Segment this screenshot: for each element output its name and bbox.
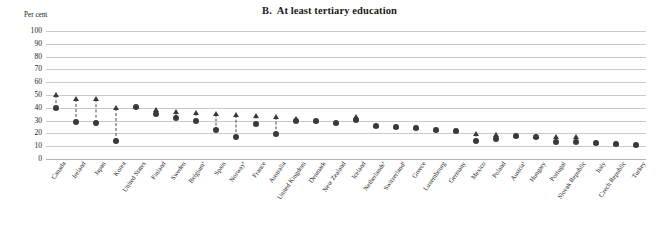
data-point-circle — [633, 142, 639, 148]
data-point-circle — [113, 138, 119, 144]
gridline — [46, 57, 646, 58]
x-axis-tick-label: Portugal — [548, 160, 567, 182]
y-axis-tick-label: 50 — [20, 91, 42, 99]
gridline — [46, 69, 646, 70]
y-axis-tick-label: 0 — [20, 155, 42, 163]
y-axis-tick-label: 90 — [20, 40, 42, 48]
data-point-circle — [333, 120, 339, 126]
data-point-triangle — [233, 112, 239, 117]
x-axis-tick-label: Korea — [112, 160, 127, 177]
y-axis-tick-label: 10 — [20, 142, 42, 150]
data-point-circle — [493, 136, 499, 142]
y-axis-tick-label: 40 — [20, 104, 42, 112]
y-axis-tick-label: 70 — [20, 65, 42, 73]
data-point-triangle — [173, 109, 179, 114]
x-axis-tick-label: Poland — [490, 160, 506, 179]
marker-connector — [116, 108, 117, 141]
data-point-circle — [373, 123, 379, 129]
data-point-circle — [553, 139, 559, 145]
data-point-circle — [293, 118, 299, 124]
data-point-triangle — [273, 114, 279, 119]
x-axis-tick-label: Italy — [594, 160, 607, 174]
data-point-circle — [233, 134, 239, 140]
data-point-triangle — [253, 113, 259, 118]
y-axis-tick-label: 30 — [20, 117, 42, 125]
y-axis-unit-label: Per cent — [24, 11, 47, 19]
gridline — [46, 31, 646, 32]
data-point-triangle — [113, 105, 119, 110]
data-point-triangle — [73, 96, 79, 101]
x-axis-tick-label: Spain — [212, 160, 226, 176]
data-point-circle — [153, 111, 159, 117]
data-point-circle — [133, 104, 139, 110]
data-point-circle — [193, 118, 199, 124]
data-point-circle — [53, 105, 59, 111]
x-axis-tick-label: Finland — [149, 160, 166, 181]
x-axis-tick-label: Iceland — [350, 160, 367, 180]
data-point-triangle — [553, 134, 559, 139]
x-axis-tick-label: Ireland — [70, 160, 86, 179]
x-axis-tick-label: Sweden — [169, 160, 187, 181]
data-point-circle — [533, 134, 539, 140]
data-point-triangle — [193, 110, 199, 115]
data-point-triangle — [213, 111, 219, 116]
x-axis-tick-label: Norway¹ — [228, 160, 247, 183]
x-axis-tick-label: Canada — [50, 160, 67, 180]
y-axis-tick-label: 100 — [20, 27, 42, 35]
gridline — [46, 82, 646, 83]
y-axis-tick-label: 80 — [20, 53, 42, 61]
data-point-circle — [433, 127, 439, 133]
x-axis-tick-label: Austria¹ — [509, 160, 527, 182]
data-point-circle — [393, 124, 399, 130]
gridline — [46, 95, 646, 96]
data-point-circle — [453, 128, 459, 134]
y-axis-tick-label: 20 — [20, 129, 42, 137]
y-axis-tick-label: 60 — [20, 78, 42, 86]
x-axis-tick-label: Japan — [92, 160, 106, 176]
data-point-circle — [573, 139, 579, 145]
data-point-circle — [353, 117, 359, 123]
x-axis-tick-label: France — [251, 160, 267, 179]
data-point-circle — [413, 125, 419, 131]
gridline — [46, 121, 646, 122]
data-point-circle — [513, 133, 519, 139]
plot-area — [46, 31, 646, 159]
data-point-circle — [73, 119, 79, 125]
gridline — [46, 44, 646, 45]
x-axis-tick-label: Denmark — [307, 160, 327, 184]
gridline — [46, 146, 646, 147]
data-point-circle — [253, 121, 259, 127]
x-axis-tick-label: Greece — [410, 160, 426, 179]
x-axis-tick-label: Australia — [267, 160, 287, 184]
data-point-circle — [93, 120, 99, 126]
data-point-circle — [593, 140, 599, 146]
data-point-triangle — [473, 131, 479, 136]
x-axis-tick-label: Mexico — [469, 160, 486, 181]
data-point-circle — [173, 115, 179, 121]
data-point-triangle — [93, 96, 99, 101]
data-point-circle — [273, 131, 279, 137]
data-point-circle — [613, 141, 619, 147]
chart-title: B. At least tertiary education — [0, 5, 659, 16]
chart-container: B. At least tertiary education Per cent … — [0, 0, 659, 228]
x-axis-tick-label: Hungary — [528, 160, 547, 183]
x-axis-tick-label: Germany — [447, 160, 467, 184]
data-point-circle — [313, 118, 319, 124]
data-point-circle — [473, 138, 479, 144]
x-axis-tick-label: Turkey — [630, 160, 647, 179]
data-point-triangle — [53, 92, 59, 97]
x-axis-labels: CanadaIrelandJapanKoreaUnited StatesFinl… — [46, 160, 646, 226]
x-axis-tick-label: Belgium¹ — [187, 160, 207, 184]
data-point-circle — [213, 127, 219, 133]
